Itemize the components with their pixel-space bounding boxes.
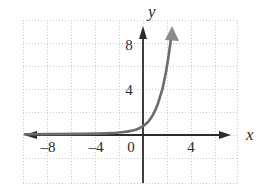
curve-arrowhead: [165, 26, 179, 41]
x-tick-label-neg4: –4: [81, 140, 111, 155]
x-tick-label-neg8: –8: [33, 140, 63, 155]
graph-figure: y x –8 –4 0 4 8 4: [0, 0, 273, 194]
x-axis-label: x: [246, 126, 254, 143]
x-tick-label-zero: 0: [122, 140, 140, 155]
x-tick-label-4: 4: [182, 140, 200, 155]
y-axis-up-arrowhead: [139, 26, 147, 39]
y-tick-label-4: 4: [120, 83, 138, 98]
exponential-curve: [25, 26, 179, 134]
y-axis-label: y: [148, 3, 156, 20]
x-axis-right-arrowhead: [219, 131, 231, 139]
y-tick-label-8: 8: [120, 38, 138, 53]
y-axis: [139, 26, 147, 183]
